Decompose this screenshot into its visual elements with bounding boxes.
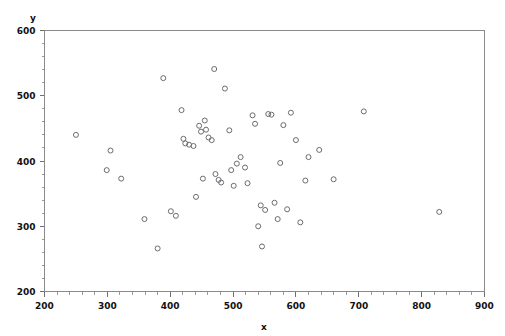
scatter-plot-figure: 200300400500600700800900 200300400500600… <box>0 0 505 336</box>
plot-canvas: 200300400500600700800900 200300400500600… <box>0 0 505 336</box>
y-tick-label: 500 <box>17 91 36 101</box>
y-axis-title: y <box>30 13 36 23</box>
x-tick-label: 400 <box>161 301 180 311</box>
y-tick-label: 600 <box>17 26 36 36</box>
y-tick-label: 200 <box>17 287 36 297</box>
x-tick-label: 900 <box>475 301 494 311</box>
x-tick-label: 700 <box>349 301 368 311</box>
x-tick-label: 800 <box>412 301 431 311</box>
x-tick-label: 300 <box>98 301 117 311</box>
figure-background <box>0 0 505 336</box>
x-tick-label: 600 <box>287 301 306 311</box>
x-tick-label: 200 <box>35 301 54 311</box>
y-tick-label: 400 <box>17 157 36 167</box>
x-tick-label: 500 <box>224 301 243 311</box>
x-axis-title: x <box>261 322 267 332</box>
y-tick-label: 300 <box>17 222 36 232</box>
